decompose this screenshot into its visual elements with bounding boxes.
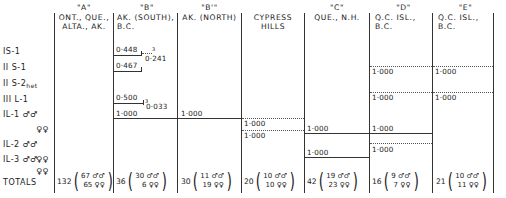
column-tag: "B" (117, 3, 177, 13)
open-paren: ( (447, 171, 452, 191)
cell-d-iis2: 1·000 (372, 68, 394, 76)
total-a: 132 ( 67 ♂♂ 65 ♀♀ ) (57, 171, 114, 191)
divider-solid (305, 157, 369, 158)
total-value: 21 (436, 177, 446, 186)
column-label: QUE., N.H. (305, 13, 369, 23)
row-label-text: II S-2 (3, 79, 26, 88)
females-count: 7 (394, 181, 398, 189)
cell-d-il3: 1·000 (372, 146, 394, 154)
open-paren: ( (383, 171, 388, 191)
male-symbol-icon: ♂♂ (211, 172, 224, 180)
column-label: HILLS (242, 22, 304, 32)
cell-e-iis2: 1·000 (435, 68, 457, 76)
total-b: 36 ( 30 ♂♂ 6 ♀♀ ) (116, 171, 169, 191)
total-value: 36 (116, 177, 126, 186)
males-line: 11 ♂♂ (200, 172, 224, 181)
females-line: 10 ♀♀ (263, 181, 287, 190)
male-symbol-icon: ♂♂ (398, 172, 411, 180)
females-count: 19 (203, 181, 212, 189)
row-label-il2-males: IL-2 ♂♂ (3, 140, 38, 150)
bracket-line (114, 55, 142, 56)
cell-b-iis1: 0·467 (116, 62, 138, 70)
total-value: 132 (57, 177, 72, 186)
open-paren: ( (192, 171, 197, 191)
sex-breakdown: 19 ♂♂ 23 ♀♀ (326, 172, 350, 190)
close-paren: ) (290, 171, 295, 191)
close-paren: ) (227, 171, 232, 191)
open-paren: ( (255, 171, 260, 191)
males-line: 67 ♂♂ (81, 172, 105, 181)
male-symbol-icon: ♂♂ (337, 172, 350, 180)
females-line: 11 ♀♀ (455, 181, 479, 190)
divider-solid (305, 133, 432, 134)
males-count: 10 (263, 172, 272, 180)
column-divider (493, 13, 494, 193)
female-symbol-icon: ♀♀ (95, 181, 105, 189)
row-label-subscript: het (26, 82, 37, 89)
cell-b-iiil1-bracket-value: 0·033 (146, 103, 168, 111)
male-symbol-icon: ♂♂ (274, 172, 287, 180)
row-label-il3-males-visible: IL-3 ♂♂ (3, 155, 38, 165)
column-tag: "E" (438, 3, 493, 13)
females-count: 6 (142, 181, 146, 189)
male-symbol-icon: ♂♂ (146, 172, 159, 180)
cell-d-iiil1: 1·000 (372, 94, 394, 102)
column-label: AK. (SOUTH), (117, 13, 177, 23)
open-paren: ( (318, 171, 323, 191)
bracket-line (114, 71, 142, 72)
males-line: 10 ♂♂ (455, 172, 479, 181)
column-header-e: "E" Q.C. ISL., B.C. (433, 3, 493, 32)
total-d: 16 ( 9 ♂♂ 7 ♀♀ ) (372, 171, 420, 191)
row-label-iis1: II S-1 (3, 63, 26, 73)
column-divider (432, 13, 433, 193)
cell-cypress-il1-females: 1·000 (244, 132, 266, 140)
males-count: 67 (81, 172, 90, 180)
female-symbol-icon: ♀♀ (149, 181, 159, 189)
row-label-il1-males: IL-1 ♂♂ (3, 110, 38, 120)
column-header-d: "D" Q.C. ISL., B.C. (370, 3, 432, 32)
close-paren: ) (482, 171, 487, 191)
female-symbol-icon: ♀♀ (340, 181, 350, 189)
females-line: 6 ♀♀ (135, 181, 159, 190)
close-paren: ) (353, 171, 358, 191)
column-tag (242, 3, 304, 13)
cell-b-prime-il1: 1·000 (181, 110, 203, 118)
column-label: CYPRESS (242, 13, 304, 23)
female-symbol-icon: ♀♀ (400, 181, 410, 189)
cell-b-is1-bracket-value: 0·241 (145, 55, 167, 63)
female-symbol-icon: ♀♀ (469, 181, 479, 189)
column-label: ONT., QUE., (55, 13, 113, 23)
column-divider (369, 13, 370, 193)
column-divider (54, 13, 55, 193)
close-paren: ) (108, 171, 113, 191)
column-label: B.C. (438, 22, 493, 32)
column-label: Q.C. ISL., (375, 13, 432, 23)
column-header-c: "C" QUE., N.H. (305, 3, 369, 22)
males-line: 19 ♂♂ (326, 172, 350, 181)
females-count: 10 (266, 181, 275, 189)
sex-breakdown: 10 ♂♂ 10 ♀♀ (263, 172, 287, 190)
row-label-is1: IS-1 (3, 47, 20, 57)
column-header-b: "B" AK. (SOUTH), B.C. (114, 3, 177, 32)
cell-c-il3: 1·000 (307, 149, 329, 157)
total-value: 30 (181, 177, 191, 186)
females-count: 65 (83, 181, 92, 189)
column-divider (177, 13, 178, 193)
males-count: 30 (135, 172, 144, 180)
column-label: ALTA., AK. (55, 22, 113, 32)
females-line: 65 ♀♀ (81, 181, 105, 190)
females-count: 11 (458, 181, 467, 189)
total-value: 16 (372, 177, 382, 186)
female-symbol-icon: ♀♀ (214, 181, 224, 189)
males-line: 9 ♂♂ (391, 172, 410, 181)
bracket-end (141, 67, 142, 72)
row-label-iiil1: III L-1 (3, 95, 28, 105)
males-count: 10 (455, 172, 464, 180)
open-paren: ( (127, 171, 132, 191)
total-c: 42 ( 19 ♂♂ 23 ♀♀ ) (307, 171, 360, 191)
males-line: 10 ♂♂ (263, 172, 287, 181)
column-label: AK. (NORTH) (178, 13, 241, 23)
row-label-totals: TOTALS (3, 178, 36, 188)
females-line: 19 ♀♀ (200, 181, 224, 190)
column-tag: "C" (305, 3, 369, 13)
